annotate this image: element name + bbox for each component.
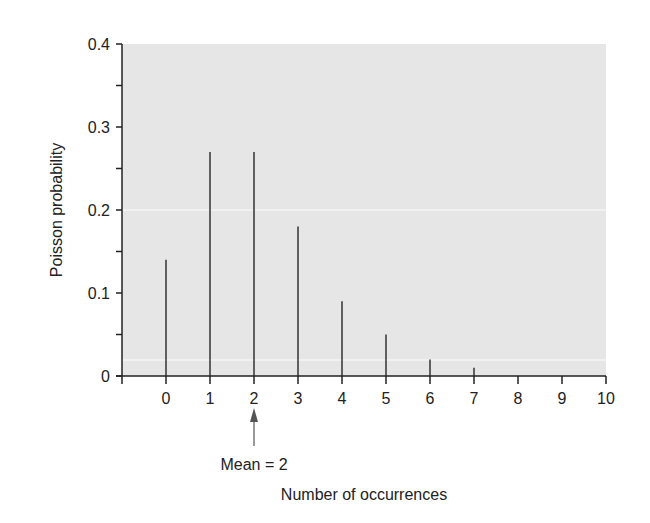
x-tick-label: 1 — [206, 390, 215, 407]
x-tick-label: 7 — [470, 390, 479, 407]
x-tick-label: 4 — [338, 390, 347, 407]
y-tick-label: 0.2 — [88, 202, 110, 219]
x-tick-label: 3 — [294, 390, 303, 407]
x-tick-label: 2 — [250, 390, 259, 407]
y-tick-label: 0.3 — [88, 119, 110, 136]
x-tick-label: 0 — [162, 390, 171, 407]
mean-label: Mean = 2 — [220, 456, 287, 473]
x-tick-label: 9 — [558, 390, 567, 407]
y-tick-label: 0.4 — [88, 36, 110, 53]
x-tick-label: 10 — [597, 390, 615, 407]
x-axis-title: Number of occurrences — [281, 486, 447, 503]
mean-annotation: Mean = 2 — [220, 408, 287, 473]
x-tick-label: 6 — [426, 390, 435, 407]
poisson-chart: 00.10.20.30.4 012345678910 Poisson proba… — [0, 0, 650, 523]
y-axis-title: Poisson probability — [48, 143, 65, 277]
x-tick-label: 5 — [382, 390, 391, 407]
x-axis: 012345678910 — [116, 376, 615, 407]
y-tick-label: 0 — [101, 368, 110, 385]
x-tick-label: 8 — [514, 390, 523, 407]
y-axis: 00.10.20.30.4 — [88, 36, 122, 385]
y-tick-label: 0.1 — [88, 285, 110, 302]
